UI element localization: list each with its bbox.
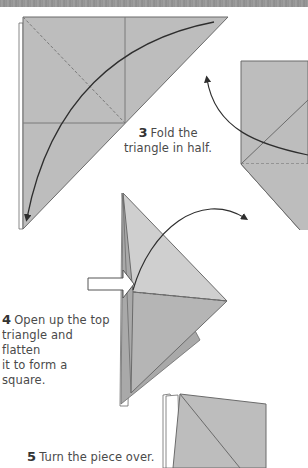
step4-number: 4: [2, 312, 11, 327]
step5-text: Turn the piece over.: [39, 450, 154, 464]
step4-text-line3: it to form a square.: [2, 358, 67, 387]
step4-caption: 4Open up the top triangle and flatten it…: [2, 312, 112, 388]
step5-caption: 5Turn the piece over.: [27, 449, 157, 465]
step4-text-line1: Open up the top: [14, 313, 110, 327]
step3-caption: 3Fold the triangle in half.: [123, 125, 213, 156]
step5-number: 5: [27, 449, 36, 464]
step3-number: 3: [138, 125, 147, 140]
partial-square-diagram: [207, 61, 308, 230]
step3-text-line2: triangle in half.: [124, 141, 212, 155]
step5-square-diagram: [163, 394, 266, 468]
step3-text-line1: Fold the: [151, 126, 198, 140]
origami-diagrams: [0, 0, 308, 468]
step4-text-line2: triangle and flatten: [2, 328, 73, 357]
